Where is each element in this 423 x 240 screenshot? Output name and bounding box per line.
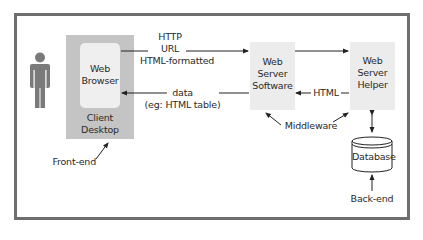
front-end-label: Front-end <box>50 156 96 168</box>
front-end-arrow <box>96 143 108 159</box>
response-label-data: data <box>170 87 195 99</box>
request-label-url: URL <box>159 43 181 55</box>
request-label: HTTP URL HTML-formatted <box>140 31 200 67</box>
back-end-label: Back-end <box>348 193 396 205</box>
request-label-format: HTML-formatted <box>140 55 200 67</box>
request-label-http: HTTP <box>140 31 200 43</box>
html-label: HTML <box>311 87 341 99</box>
response-label-example: (eg: HTML table) <box>140 99 225 111</box>
database-label: Database <box>352 151 392 163</box>
middleware-arrow-left <box>266 113 281 125</box>
middleware-label: Middleware <box>282 120 340 132</box>
response-label: data (eg: HTML table) <box>140 87 225 111</box>
